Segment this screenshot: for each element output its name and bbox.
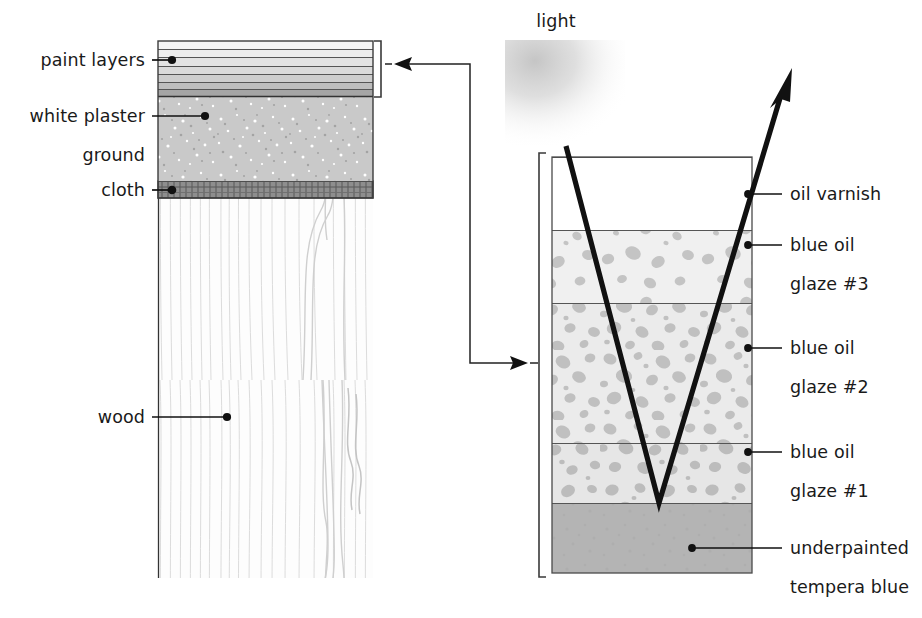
paint-layers-stack bbox=[158, 41, 373, 97]
paint-band-6 bbox=[158, 82, 373, 89]
dot-cloth bbox=[168, 186, 177, 195]
label-blue-oil-glaze-2-line2: glaze #2 bbox=[790, 377, 869, 397]
connector-path bbox=[401, 64, 521, 363]
layer-white-plaster-ground bbox=[158, 97, 373, 181]
light-source-group: light bbox=[505, 11, 625, 145]
label-blue-oil-glaze-2-line1: blue oil bbox=[790, 338, 855, 358]
painting-cross-section: paint layers white plaster ground cloth … bbox=[30, 41, 381, 578]
glaze-stack-bracket bbox=[539, 153, 546, 577]
paint-band-7 bbox=[158, 89, 373, 97]
label-oil-varnish: oil varnish bbox=[790, 184, 881, 204]
dot-wood bbox=[223, 413, 231, 421]
label-white-plaster: white plaster bbox=[30, 106, 146, 126]
layer-cloth bbox=[158, 181, 373, 198]
dot-blue-oil-glaze-2 bbox=[744, 344, 752, 352]
dot-underpainted-tempera-blue bbox=[688, 544, 696, 552]
layer-underpainted-tempera-blue bbox=[552, 503, 752, 573]
paint-band-2 bbox=[158, 49, 373, 57]
layer-oil-varnish bbox=[552, 157, 752, 230]
dot-blue-oil-glaze-1 bbox=[744, 448, 752, 456]
paint-layers-bracket bbox=[374, 41, 381, 97]
label-blue-oil-glaze-3-line1: blue oil bbox=[790, 235, 855, 255]
dot-paint-layers bbox=[168, 56, 176, 64]
paint-band-5 bbox=[158, 74, 373, 82]
label-blue-oil-glaze-1-line2: glaze #1 bbox=[790, 481, 869, 501]
label-ground: ground bbox=[82, 145, 145, 165]
label-paint-layers: paint layers bbox=[41, 50, 145, 70]
layer-wood bbox=[158, 198, 373, 578]
diagram-canvas: light bbox=[0, 0, 922, 618]
paint-band-4 bbox=[158, 66, 373, 74]
paint-band-3 bbox=[158, 57, 373, 66]
label-wood: wood bbox=[98, 407, 145, 427]
dot-blue-oil-glaze-3 bbox=[744, 241, 752, 249]
light-glow bbox=[505, 40, 625, 145]
label-cloth: cloth bbox=[101, 180, 145, 200]
dot-white-plaster bbox=[201, 112, 209, 120]
label-blue-oil-glaze-3-line2: glaze #3 bbox=[790, 274, 869, 294]
label-underpainted-tempera-blue-line1: underpainted bbox=[790, 538, 909, 558]
label-blue-oil-glaze-1-line1: blue oil bbox=[790, 442, 855, 462]
paint-band-1 bbox=[158, 41, 373, 49]
dot-oil-varnish bbox=[744, 190, 752, 198]
label-underpainted-tempera-blue-line2: tempera blue bbox=[790, 577, 909, 597]
glaze-stack-magnified: oil varnish blue oil glaze #3 blue oil g… bbox=[539, 68, 909, 597]
light-label: light bbox=[536, 11, 575, 31]
layer-blue-oil-glaze-2 bbox=[552, 303, 752, 443]
